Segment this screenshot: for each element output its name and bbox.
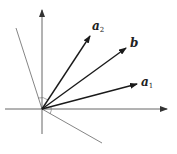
label-a2: a2	[92, 19, 104, 34]
vector-diagram: a2 b a1	[0, 0, 177, 154]
label-b: b	[130, 36, 138, 50]
angle-arc-small	[38, 98, 48, 100]
label-a1: a1	[141, 75, 153, 90]
vector-b	[42, 48, 126, 109]
normal-line-upper	[16, 28, 42, 109]
angle-arc-lower	[50, 107, 51, 114]
normal-line-lower	[42, 109, 102, 143]
